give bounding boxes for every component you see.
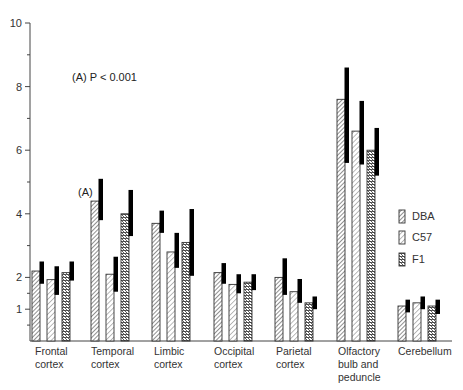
bars: (A) — [32, 68, 440, 341]
category-label: peduncle — [338, 371, 381, 383]
bar-f1 — [182, 242, 190, 341]
error-bar — [252, 274, 257, 290]
legend-swatch-f1 — [399, 253, 405, 266]
category-label: Occipital — [214, 345, 254, 357]
significance-marker: (A) — [78, 186, 93, 198]
error-bar — [55, 266, 60, 295]
bar-f1 — [62, 273, 70, 341]
error-bar — [421, 296, 426, 309]
category-label: Olfactory — [338, 345, 381, 357]
error-bar — [40, 262, 45, 284]
legend: DBAC57F1 — [399, 210, 435, 266]
error-bar — [160, 211, 165, 233]
error-bar — [222, 263, 227, 284]
error-bar — [298, 279, 303, 303]
error-bar — [313, 296, 318, 309]
error-bar — [175, 233, 180, 268]
error-bar — [114, 257, 119, 292]
bar-c57 — [413, 303, 421, 341]
bar-dba — [91, 201, 99, 341]
error-bar — [436, 300, 441, 314]
bar-f1 — [428, 306, 436, 341]
bar-f1 — [121, 214, 129, 341]
bar-c57 — [167, 252, 175, 341]
category-label: Limbic — [154, 345, 184, 357]
category-label: Parietal — [276, 345, 312, 357]
bar-f1 — [244, 282, 252, 341]
category-label: Temporal — [91, 345, 134, 357]
category-label: cortex — [91, 358, 120, 370]
bar-c57 — [106, 274, 114, 341]
category-label: Frontal — [35, 345, 68, 357]
y-tick-label: 8 — [16, 81, 22, 93]
legend-swatch-dba — [399, 210, 405, 223]
bar-dba — [32, 271, 40, 341]
error-bar — [99, 179, 104, 220]
category-label: Cerebellum — [398, 345, 452, 357]
legend-label: C57 — [412, 231, 432, 243]
error-bar — [237, 274, 242, 293]
bar-f1 — [367, 150, 375, 341]
error-bar — [375, 128, 380, 176]
bar-chart: 1246810 (A) FrontalcortexTemporalcortexL… — [0, 0, 463, 390]
bar-c57 — [229, 284, 237, 341]
error-bar — [406, 300, 411, 313]
legend-label: F1 — [412, 253, 425, 265]
y-tick-label: 10 — [10, 17, 22, 29]
y-tick-label: 1 — [16, 303, 22, 315]
bar-c57 — [352, 131, 360, 341]
bar-f1 — [305, 303, 313, 341]
bar-dba — [152, 223, 160, 341]
error-bar — [70, 262, 75, 281]
bar-c57 — [47, 280, 55, 341]
category-label: cortex — [35, 358, 64, 370]
category-label: cortex — [154, 358, 183, 370]
category-labels: FrontalcortexTemporalcortexLimbiccortexO… — [35, 345, 452, 383]
legend-swatch-c57 — [399, 231, 405, 244]
error-bar — [283, 258, 288, 295]
bar-dba — [275, 277, 283, 341]
category-label: bulb and — [338, 358, 378, 370]
error-bar — [129, 190, 134, 236]
bar-c57 — [290, 292, 298, 341]
error-bar — [345, 68, 350, 163]
y-tick-label: 6 — [16, 144, 22, 156]
category-label: cortex — [276, 358, 305, 370]
y-tick-label: 2 — [16, 271, 22, 283]
significance-annotation: (A) P < 0.001 — [72, 71, 137, 83]
bar-dba — [337, 99, 345, 341]
error-bar — [190, 209, 195, 276]
y-tick-label: 4 — [16, 208, 22, 220]
bar-dba — [214, 273, 222, 341]
error-bar — [360, 101, 365, 165]
bar-dba — [398, 306, 406, 341]
legend-label: DBA — [412, 210, 435, 222]
category-label: cortex — [214, 358, 243, 370]
